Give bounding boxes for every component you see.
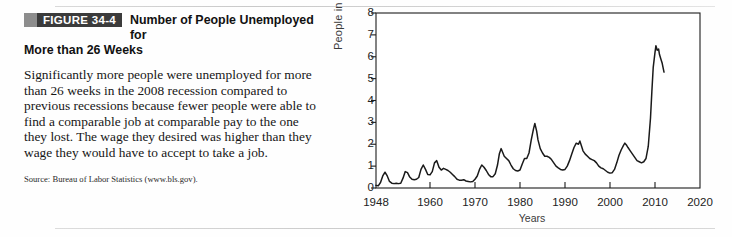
figure-marker-square [24, 13, 37, 27]
x-tick-2010: 2010 [642, 196, 668, 208]
figure-title-line-2: More than 26 Weeks [24, 43, 332, 58]
x-axis-tick-labels: 19481960197019801990200020102020 [336, 6, 728, 206]
unemployment-line-chart: People in millions Years 012345678 19481… [336, 6, 728, 232]
x-tick-2020: 2020 [687, 196, 713, 208]
x-tick-1960: 1960 [417, 196, 443, 208]
figure-number-badge: FIGURE 34-4 [37, 13, 122, 27]
x-axis-label: Years [336, 212, 728, 224]
x-tick-1970: 1970 [462, 196, 488, 208]
x-tick-1980: 1980 [507, 196, 533, 208]
figure-panel: FIGURE 34-4 Number of People Unemployed … [0, 0, 732, 237]
x-tick-1948: 1948 [363, 196, 389, 208]
figure-title-line-1: Number of People Unemployed for [130, 13, 332, 42]
x-tick-1990: 1990 [552, 196, 578, 208]
caption-block: FIGURE 34-4 Number of People Unemployed … [24, 13, 332, 184]
x-tick-2000: 2000 [597, 196, 623, 208]
figure-description: Significantly more people were unemploye… [24, 67, 316, 161]
figure-source: Source: Bureau of Labor Statistics (www.… [24, 174, 332, 184]
figure-heading: FIGURE 34-4 Number of People Unemployed … [24, 13, 332, 42]
